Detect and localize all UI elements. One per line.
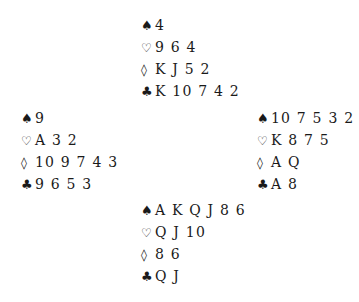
south-clubs: ♣Q J [141,265,246,287]
spade-icon: ♠ [141,15,155,37]
west-hearts: ♡A 3 2 [21,129,118,151]
diamond-icon: ◊ [141,59,155,81]
north-hand: ♠4 ♡9 6 4 ◊K J 5 2 ♣K 10 7 4 2 [141,14,240,102]
diamond-icon: ◊ [21,152,35,174]
east-diamonds: ◊A Q [257,151,354,173]
west-hand: ♠9 ♡A 3 2 ◊10 9 7 4 3 ♣9 6 5 3 [21,107,118,195]
heart-icon: ♡ [21,130,35,152]
club-icon: ♣ [141,266,155,288]
west-clubs: ♣9 6 5 3 [21,173,118,195]
south-hearts: ♡Q J 10 [141,221,246,243]
diamond-icon: ◊ [257,152,271,174]
spade-icon: ♠ [141,200,155,222]
club-icon: ♣ [141,81,155,103]
north-hearts: ♡9 6 4 [141,36,240,58]
east-hand: ♠10 7 5 3 2 ♡K 8 7 5 ◊A Q ♣A 8 [257,107,354,195]
spade-icon: ♠ [21,108,35,130]
east-hearts: ♡K 8 7 5 [257,129,354,151]
east-clubs: ♣A 8 [257,173,354,195]
west-diamonds: ◊10 9 7 4 3 [21,151,118,173]
heart-icon: ♡ [257,130,271,152]
north-clubs: ♣K 10 7 4 2 [141,80,240,102]
east-spades: ♠10 7 5 3 2 [257,107,354,129]
north-diamonds: ◊K J 5 2 [141,58,240,80]
spade-icon: ♠ [257,108,271,130]
north-spades: ♠4 [141,14,240,36]
diamond-icon: ◊ [141,244,155,266]
heart-icon: ♡ [141,37,155,59]
west-spades: ♠9 [21,107,118,129]
club-icon: ♣ [257,174,271,196]
south-diamonds: ◊8 6 [141,243,246,265]
club-icon: ♣ [21,174,35,196]
south-hand: ♠A K Q J 8 6 ♡Q J 10 ◊8 6 ♣Q J [141,199,246,287]
heart-icon: ♡ [141,222,155,244]
south-spades: ♠A K Q J 8 6 [141,199,246,221]
